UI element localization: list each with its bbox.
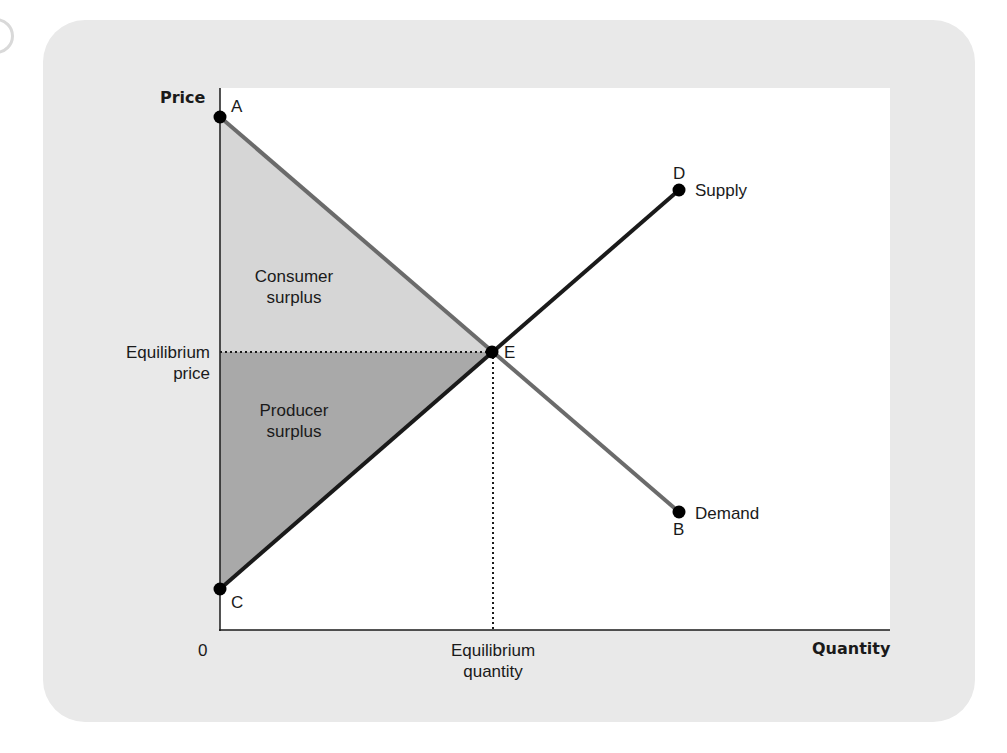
point-b-label: B	[673, 519, 684, 540]
point-d-marker	[673, 184, 686, 197]
point-c-label: C	[231, 592, 243, 613]
demand-label: Demand	[695, 503, 759, 524]
point-e-label: E	[504, 342, 515, 363]
point-a-label: A	[231, 96, 242, 117]
point-d-label: D	[673, 163, 685, 184]
point-c-marker	[214, 583, 227, 596]
consumer-surplus-label: Consumer surplus	[236, 266, 352, 308]
x-axis-label: Quantity	[812, 638, 890, 659]
origin-label: 0	[198, 640, 207, 661]
supply-label: Supply	[695, 180, 747, 201]
equilibrium-quantity-label: Equilibrium quantity	[432, 640, 554, 682]
point-e-marker	[486, 346, 499, 359]
equilibrium-price-label: Equilibrium price	[96, 342, 210, 384]
point-a-marker	[214, 111, 227, 124]
y-axis-label: Price	[160, 87, 205, 108]
producer-surplus-label: Producer surplus	[236, 400, 352, 442]
point-b-marker	[673, 506, 686, 519]
